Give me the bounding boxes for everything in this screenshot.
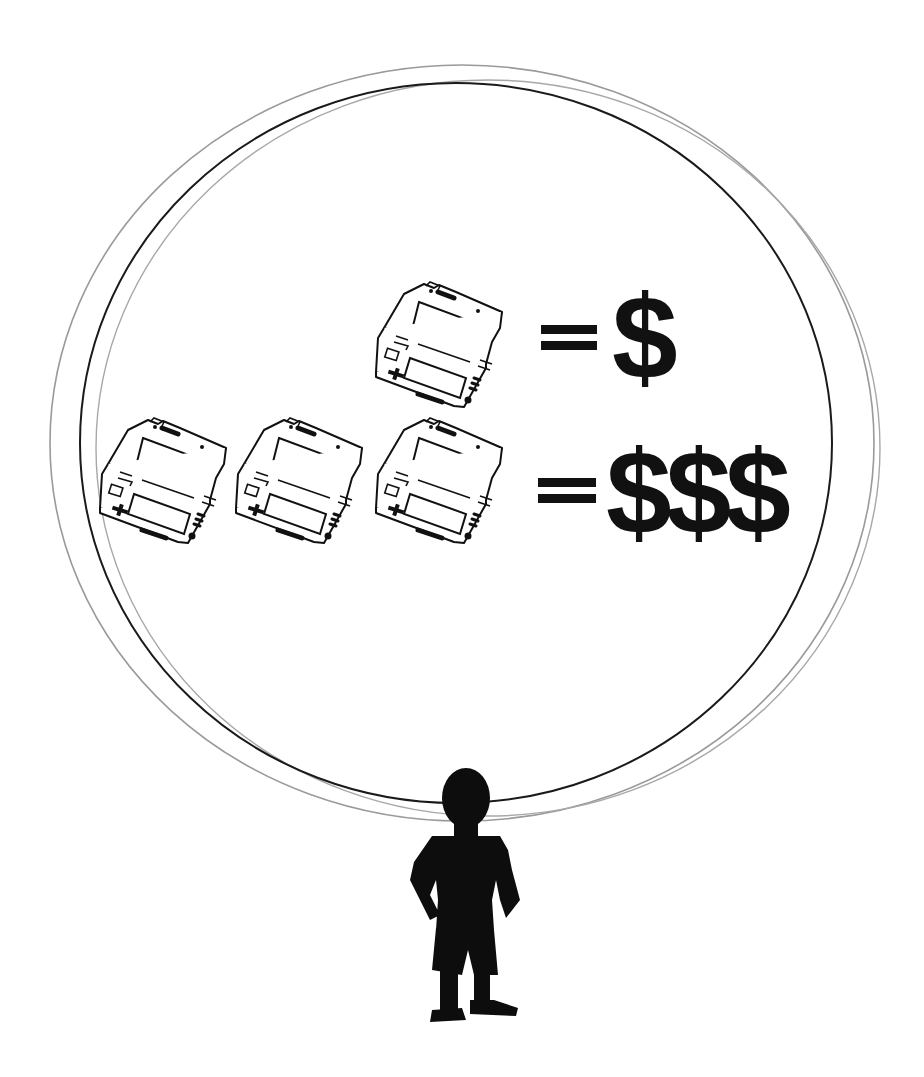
equals-icon bbox=[541, 325, 597, 350]
row-single-console: $ bbox=[376, 271, 678, 407]
game-console-icon bbox=[376, 418, 502, 543]
equals-icon bbox=[538, 478, 596, 503]
illustration-canvas: $ $$$ bbox=[0, 0, 924, 1077]
row-three-consoles: $$$ bbox=[100, 418, 789, 558]
game-console-icon bbox=[236, 418, 362, 543]
value-label-triple: $$$ bbox=[606, 426, 789, 558]
game-console-icon bbox=[100, 418, 226, 543]
game-console-icon bbox=[376, 282, 502, 407]
value-label-single: $ bbox=[612, 271, 678, 403]
child-silhouette-icon bbox=[410, 768, 520, 1022]
